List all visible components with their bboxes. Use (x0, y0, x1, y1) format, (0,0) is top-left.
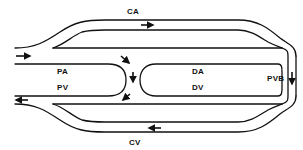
label-da: DA (192, 68, 204, 76)
center-bottom-arrow-icon (123, 94, 130, 100)
label-pv: PV (57, 84, 68, 92)
outer-boundary-bottom (15, 96, 296, 132)
outer-boundary-top (15, 20, 296, 56)
da-dv-right-lobe (140, 64, 282, 96)
label-ca: CA (127, 8, 139, 16)
label-pa: PA (57, 68, 68, 76)
label-dv: DV (192, 84, 204, 92)
center-top-arrow-icon (121, 56, 129, 63)
label-cv: CV (129, 139, 141, 147)
ca-inner-boundary (53, 30, 282, 48)
label-pvb: PVB (267, 75, 284, 83)
circulation-diagram (0, 0, 303, 150)
pa-pv-left-lobe (15, 64, 126, 96)
cv-inner-boundary (53, 104, 282, 122)
